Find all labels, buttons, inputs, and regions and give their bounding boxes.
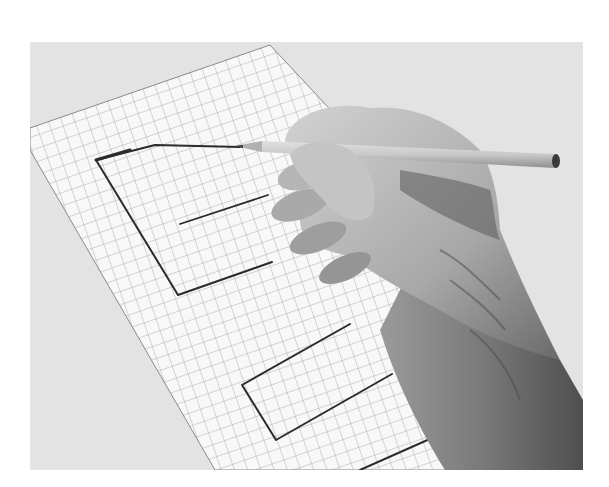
photo-scene — [30, 42, 583, 470]
photograph — [30, 42, 583, 470]
